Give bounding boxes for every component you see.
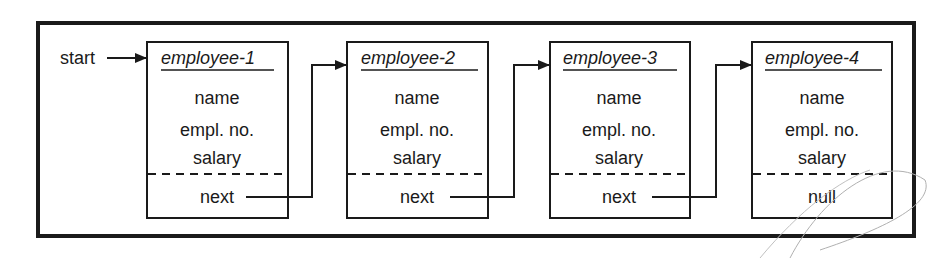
linked-list-diagram: start employee-1 name empl. no. salary n… (0, 0, 950, 258)
link-arrow-icon (652, 65, 751, 197)
field-next: next (602, 187, 636, 207)
node-title: employee-2 (361, 48, 455, 68)
field-empl-no: empl. no. (785, 120, 859, 140)
field-salary: salary (193, 148, 241, 168)
field-salary: salary (798, 148, 846, 168)
field-salary: salary (393, 148, 441, 168)
node-employee-4: employee-4 name empl. no. salary null (752, 42, 892, 218)
node-title: employee-4 (765, 48, 859, 68)
link-arrow-icon (246, 65, 346, 197)
node-employee-3: employee-3 name empl. no. salary next (550, 42, 690, 218)
start-label: start (60, 48, 95, 68)
field-name: name (596, 88, 641, 108)
pencil-mark (790, 171, 926, 258)
field-next: next (400, 187, 434, 207)
node-title: employee-3 (563, 48, 657, 68)
field-name: name (194, 88, 239, 108)
node-title: employee-1 (161, 48, 255, 68)
node-employee-1: employee-1 name empl. no. salary next (147, 42, 288, 218)
field-salary: salary (595, 148, 643, 168)
field-empl-no: empl. no. (380, 120, 454, 140)
node-employee-2: employee-2 name empl. no. salary next (347, 42, 488, 218)
field-empl-no: empl. no. (180, 120, 254, 140)
pencil-mark (760, 170, 870, 258)
field-name: name (394, 88, 439, 108)
field-empl-no: empl. no. (582, 120, 656, 140)
field-next: next (200, 187, 234, 207)
link-arrow-icon (450, 65, 549, 197)
field-name: name (799, 88, 844, 108)
